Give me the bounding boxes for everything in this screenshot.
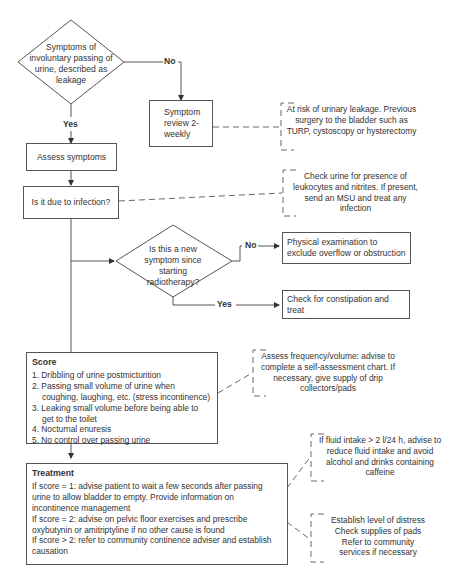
distress-line: Check supplies of pads — [318, 526, 438, 537]
label-no-new-symptom: No — [244, 240, 257, 250]
box-infection: Is it due to infection? — [23, 186, 119, 219]
score-item: 5. No control over passing urine — [32, 435, 212, 446]
score-item: 3. Leaking small volume before being abl… — [32, 403, 212, 425]
panel-score: Score 1. Dribbling of urine postmicturit… — [26, 352, 218, 444]
note-urine-check: Check urine for presence of leukocytes a… — [288, 171, 423, 214]
score-item: 1. Dribbling of urine postmicturition — [32, 370, 212, 381]
score-list: 1. Dribbling of urine postmicturition 2.… — [32, 370, 212, 446]
note-frequency: Assess frequency/volume: advise to compl… — [258, 351, 398, 394]
treatment-item: If score > 2: refer to community contine… — [32, 535, 282, 557]
label-yes-leakage: Yes — [62, 119, 79, 129]
box-assess-symptoms: Assess symptoms — [26, 143, 117, 171]
box-constipation: Check for constipation and treat — [282, 290, 410, 319]
panel-treatment: Treatment If score = 1: advise patient t… — [26, 463, 288, 565]
decision-leakage: Symptoms of involuntary passing of urine… — [28, 42, 114, 86]
score-item: 4. Nocturnal enuresis — [32, 424, 212, 435]
label-yes-new-symptom: Yes — [216, 299, 233, 309]
distress-line: Establish level of distress — [318, 515, 438, 526]
treatment-item: If score = 2: advise on pelvic floor exe… — [32, 514, 282, 536]
treatment-title: Treatment — [32, 468, 282, 479]
box-symptom-review: Symptom review 2-weekly — [149, 100, 213, 147]
distress-line: services if necessary — [318, 547, 438, 558]
distress-line: Refer to community — [318, 537, 438, 548]
box-physical-exam: Physical examination to exclude overflow… — [282, 232, 411, 264]
note-fluid: If fluid intake > 2 l/24 h, advise to re… — [316, 435, 444, 478]
score-item: 2. Passing small volume of urine when co… — [32, 381, 212, 403]
treatment-item: If score = 1: advise patient to wait a f… — [32, 481, 282, 514]
score-title: Score — [32, 357, 212, 368]
label-no-leakage: No — [163, 56, 176, 66]
note-risk: At risk of urinary leakage. Previous sur… — [284, 104, 419, 136]
decision-new-symptom: Is this a new symptom since starting rad… — [134, 244, 212, 288]
note-distress: Establish level of distress Check suppli… — [318, 515, 438, 558]
